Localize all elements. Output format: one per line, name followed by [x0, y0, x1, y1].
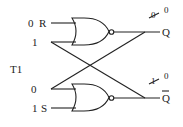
sr-latch-diagram: 0 R 1 T1 0 1 S Q Q 0 0 1 0	[0, 0, 183, 127]
q-old-value: 0	[151, 10, 156, 20]
r-label: R	[39, 17, 47, 29]
top-nor-bubble	[109, 30, 114, 35]
timing-label: T1	[10, 63, 22, 75]
q-new-value: 0	[164, 5, 169, 15]
diagram-svg: 0 R 1 T1 0 1 S Q Q 0 0 1 0	[0, 0, 183, 127]
top-nor-gate	[72, 18, 109, 45]
r-value: 0	[28, 17, 34, 29]
r-feedback-value: 1	[32, 36, 38, 48]
cross-wire-q-to-bottom	[51, 32, 145, 89]
bottom-nor-bubble	[109, 96, 114, 101]
cross-wire-qbar-to-top	[51, 42, 145, 98]
q-label: Q	[162, 26, 170, 38]
qbar-old-value: 1	[151, 76, 156, 86]
s-value: 1	[32, 102, 38, 114]
bottom-nor-gate	[72, 84, 109, 111]
s-feedback-value: 0	[31, 83, 37, 95]
qbar-label: Q	[162, 92, 170, 104]
s-label: S	[41, 102, 47, 114]
qbar-new-value: 0	[164, 71, 169, 81]
